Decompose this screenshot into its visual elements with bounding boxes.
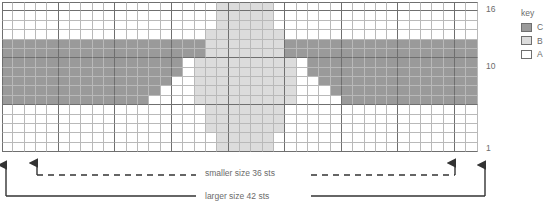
stitch-cell — [59, 30, 70, 39]
stitch-cell — [285, 2, 296, 11]
stitch-cell — [421, 58, 432, 67]
stitch-cell — [240, 143, 251, 152]
stitch-cell — [229, 133, 240, 142]
stitch-cell — [444, 68, 455, 77]
stitch-cell — [376, 21, 387, 30]
stitch-cell — [297, 2, 308, 11]
stitch-cell — [319, 68, 330, 77]
stitch-cell — [297, 124, 308, 133]
stitch-cell — [251, 96, 262, 105]
stitch-cell — [251, 124, 262, 133]
stitch-cell — [206, 133, 217, 142]
stitch-cell — [36, 49, 47, 58]
stitch-cell — [285, 40, 296, 49]
stitch-cell — [183, 105, 194, 114]
stitch-cell — [2, 143, 13, 152]
stitch-cell — [217, 77, 228, 86]
stitch-cell — [251, 77, 262, 86]
stitch-cell — [81, 96, 92, 105]
stitch-cell — [432, 21, 443, 30]
stitch-cell — [104, 68, 115, 77]
stitch-cell — [81, 11, 92, 20]
stitch-cell — [172, 58, 183, 67]
stitch-cell — [115, 11, 126, 20]
stitch-cell — [455, 30, 466, 39]
stitch-cell — [93, 133, 104, 142]
stitch-cell — [206, 2, 217, 11]
stitch-cell — [206, 115, 217, 124]
stitch-cell — [206, 30, 217, 39]
stitch-cell — [127, 49, 138, 58]
stitch-cell — [319, 77, 330, 86]
stitch-cell — [127, 86, 138, 95]
stitch-cell — [274, 21, 285, 30]
stitch-cell — [240, 105, 251, 114]
stitch-cell — [13, 77, 24, 86]
stitch-cell — [2, 11, 13, 20]
stitch-cell — [2, 86, 13, 95]
stitch-cell — [217, 11, 228, 20]
stitch-cell — [240, 68, 251, 77]
stitch-cell — [331, 133, 342, 142]
stitch-cell — [240, 11, 251, 20]
stitch-cell — [138, 124, 149, 133]
stitch-cell — [183, 86, 194, 95]
stitch-cell — [47, 124, 58, 133]
stitch-cell — [13, 58, 24, 67]
stitch-cell — [297, 11, 308, 20]
legend-title: key — [521, 8, 543, 18]
stitch-cell — [104, 124, 115, 133]
stitch-cell — [376, 86, 387, 95]
stitch-cell — [342, 49, 353, 58]
stitch-cell — [421, 124, 432, 133]
stitch-cell — [455, 86, 466, 95]
stitch-cell — [206, 11, 217, 20]
stitch-row — [2, 58, 478, 67]
stitch-cell — [25, 11, 36, 20]
stitch-cell — [2, 96, 13, 105]
stitch-cell — [149, 30, 160, 39]
stitch-cell — [376, 49, 387, 58]
stitch-cell — [229, 11, 240, 20]
stitch-cell — [195, 40, 206, 49]
stitch-cell — [240, 2, 251, 11]
stitch-cell — [353, 96, 364, 105]
stitch-cell — [240, 58, 251, 67]
stitch-row — [2, 11, 478, 20]
stitch-cell — [376, 143, 387, 152]
stitch-row — [2, 133, 478, 142]
stitch-cell — [410, 68, 421, 77]
stitch-cell — [104, 11, 115, 20]
stitch-cell — [387, 40, 398, 49]
stitch-cell — [263, 143, 274, 152]
stitch-cell — [127, 11, 138, 20]
stitch-cell — [25, 133, 36, 142]
stitch-cell — [93, 86, 104, 95]
stitch-cell — [229, 30, 240, 39]
stitch-cell — [2, 133, 13, 142]
stitch-cell — [398, 143, 409, 152]
stitch-cell — [25, 77, 36, 86]
stitch-cell — [206, 49, 217, 58]
stitch-cell — [81, 143, 92, 152]
legend-swatch-c — [521, 23, 532, 32]
stitch-cell — [432, 133, 443, 142]
stitch-cell — [365, 30, 376, 39]
stitch-cell — [274, 2, 285, 11]
stitch-cell — [263, 21, 274, 30]
stitch-cell — [161, 40, 172, 49]
stitch-cell — [59, 49, 70, 58]
stitch-cell — [353, 115, 364, 124]
stitch-cell — [466, 2, 477, 11]
stitch-cell — [138, 133, 149, 142]
stitch-cell — [93, 2, 104, 11]
stitch-cell — [432, 115, 443, 124]
stitch-row — [2, 68, 478, 77]
stitch-cell — [376, 68, 387, 77]
stitch-cell — [81, 86, 92, 95]
stitch-cell — [195, 49, 206, 58]
stitch-cell — [70, 49, 81, 58]
stitch-cell — [410, 11, 421, 20]
stitch-cell — [297, 68, 308, 77]
stitch-cell — [138, 143, 149, 152]
